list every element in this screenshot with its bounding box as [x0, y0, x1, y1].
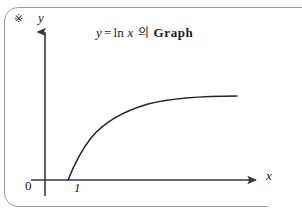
plot-area — [0, 0, 302, 217]
x-intercept-label: 1 — [74, 180, 81, 196]
x-axis-label: x — [266, 168, 272, 184]
figure-container: ※ y y=ln x 의 Graph 0 1 x — [0, 0, 302, 217]
origin-label: 0 — [25, 178, 32, 194]
log-curve — [68, 96, 237, 180]
